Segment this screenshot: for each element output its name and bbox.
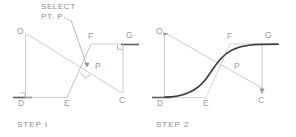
- step1-annotation-leader: [71, 20, 87, 66]
- step1-label-G: G: [126, 31, 133, 40]
- step1-label-C: C: [119, 96, 126, 105]
- step2-line-E-F: [206, 44, 230, 98]
- step2-caption: STEP 2: [156, 120, 189, 129]
- step1-label-P: P: [95, 62, 101, 71]
- step1-annotation-arrowhead: [84, 63, 89, 68]
- diagram-canvas: SELECT PT. P O F G P C D E STEP I O F G …: [0, 0, 296, 137]
- step2-label-O: O: [156, 27, 163, 36]
- step1-text-tick: [64, 17, 70, 21]
- step2-label-D: D: [157, 99, 164, 108]
- step1-label-E: E: [64, 99, 70, 108]
- step1-line-E-F: [67, 44, 91, 98]
- step2-arrowhead-C: [259, 89, 264, 95]
- step1-caption: STEP I: [17, 120, 48, 129]
- step1-label-D: D: [18, 99, 25, 108]
- step2-label-E: E: [203, 99, 209, 108]
- step2-label-C: C: [258, 96, 265, 105]
- panel-step1: [13, 17, 139, 98]
- step1-label-F: F: [88, 32, 94, 41]
- step2-label-G: G: [265, 31, 272, 40]
- step1-line-O-C: [26, 34, 122, 94]
- annotation-select-line2: PT. P: [41, 12, 63, 22]
- annotation-select-line1: SELECT: [41, 2, 76, 12]
- panel-step2: [152, 32, 278, 97]
- right-angle-marker-G: [118, 45, 123, 50]
- step2-label-F: F: [227, 32, 233, 41]
- step2-label-P: P: [234, 62, 240, 71]
- step1-label-O: O: [17, 27, 24, 36]
- right-angle-marker-P: [81, 73, 91, 79]
